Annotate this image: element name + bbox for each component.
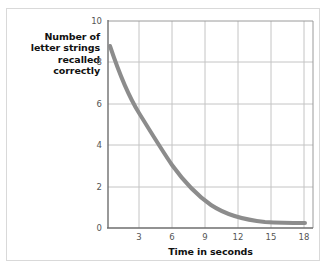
chart-figure: Number of letter strings recalled correc… [0,0,327,271]
plot-area [0,0,327,271]
vertical-gridlines [139,21,304,228]
